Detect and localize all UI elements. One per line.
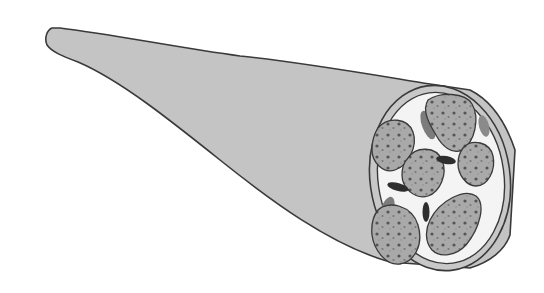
- diagram-canvas: [0, 0, 544, 293]
